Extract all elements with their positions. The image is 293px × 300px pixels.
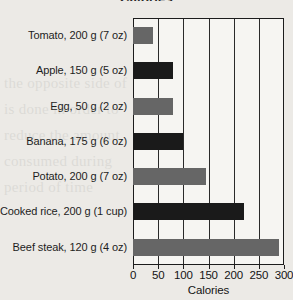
bar-row [133,89,284,124]
category-axis-labels: Tomato, 200 g (7 oz)Apple, 150 g (5 oz)E… [0,18,130,265]
bar [133,203,244,220]
category-label: Beef steak, 120 g (4 oz) [13,230,127,265]
x-axis-title: Calories [133,284,284,296]
category-label: Banana, 175 g (6 oz) [26,124,127,159]
bar-chart: Calories Tomato, 200 g (7 oz)Apple, 150 … [0,0,293,300]
bar [133,168,206,185]
category-label: Tomato, 200 g (7 oz) [28,18,127,53]
category-label: Cooked rice, 200 g (1 cup) [0,194,127,229]
bar-series [133,18,284,265]
bar [133,133,183,150]
bar-row [133,124,284,159]
bar-row [133,53,284,88]
bar [133,62,173,79]
category-label: Egg, 50 g (2 oz) [50,89,127,124]
bar [133,239,279,256]
bar-row [133,159,284,194]
bar-row [133,194,284,229]
chart-title: Calories [0,0,293,1]
bar [133,27,153,44]
bar-row [133,18,284,53]
category-label: Apple, 150 g (5 oz) [36,53,127,88]
x-tick-label: 300 [269,269,293,281]
category-label: Potato, 200 g (7 oz) [32,159,127,194]
bar-row [133,230,284,265]
bar [133,98,173,115]
